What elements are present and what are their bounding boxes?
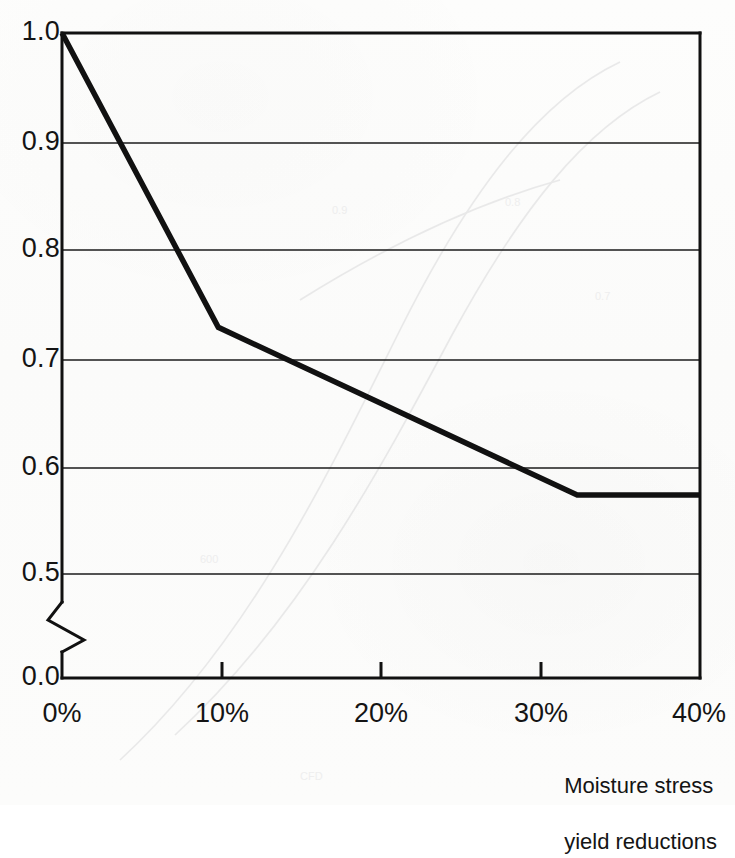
x-tick-label: 40% bbox=[672, 700, 726, 727]
x-tick-label: 30% bbox=[514, 700, 568, 727]
y-axis-tick-labels: 1.0 0.9 0.8 0.7 0.6 0.5 0.0 bbox=[0, 0, 60, 805]
x-axis-caption: Moisture stress yield reductions bbox=[564, 744, 717, 858]
y-tick-label: 0.9 bbox=[4, 128, 60, 155]
data-line-yield-response bbox=[62, 33, 700, 495]
x-tick-label: 10% bbox=[195, 700, 249, 727]
x-ticks bbox=[222, 662, 541, 678]
x-tick-label: 20% bbox=[354, 700, 408, 727]
plot-frame bbox=[62, 33, 700, 678]
x-axis-caption-line-2: yield reductions bbox=[564, 828, 717, 856]
y-tick-label: 1.0 bbox=[4, 18, 60, 45]
y-tick-label: 0.5 bbox=[4, 559, 60, 586]
y-tick-label: 0.6 bbox=[4, 453, 60, 480]
y-tick-label: 0.8 bbox=[4, 235, 60, 262]
y-tick-label: 0.7 bbox=[4, 345, 60, 372]
x-axis-caption-line-1: Moisture stress bbox=[564, 772, 717, 800]
x-tick-label: 0% bbox=[42, 700, 81, 727]
y-tick-label: 0.0 bbox=[4, 663, 60, 690]
